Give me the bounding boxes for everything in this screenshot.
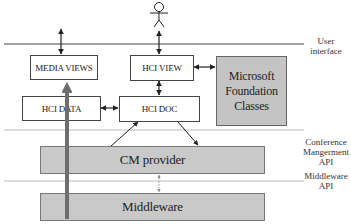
hci-data-box: HCI DATA xyxy=(22,96,101,121)
conference-api-layer-label: Conference Mangerment API xyxy=(301,137,351,167)
mfc-box: Microsoft Foundation Classes xyxy=(216,56,287,126)
middleware-box: Middleware xyxy=(40,193,265,221)
middleware-label: Middleware xyxy=(122,199,183,215)
hci-view-box: HCI VIEW xyxy=(130,55,194,81)
hci-view-label: HCI VIEW xyxy=(142,63,181,73)
cmprovider-hcidoc-arrow xyxy=(111,122,138,146)
middleware-api-layer-label: Middleware API xyxy=(301,171,351,191)
media-views-label: MEDIA VIEWS xyxy=(35,63,92,73)
hci-doc-box: HCI DOC xyxy=(119,96,200,122)
user-interface-layer-label: User interface xyxy=(301,36,351,56)
user-actor-icon xyxy=(150,3,168,28)
cm-provider-box: CM provider xyxy=(40,146,265,174)
hci-doc-label: HCI DOC xyxy=(142,104,177,114)
media-views-box: MEDIA VIEWS xyxy=(30,55,98,80)
hci-data-label: HCI DATA xyxy=(42,104,81,114)
mfc-label: Microsoft Foundation Classes xyxy=(217,69,286,114)
architecture-diagram: MEDIA VIEWS HCI VIEW Microsoft Foundatio… xyxy=(0,0,351,224)
hcidoc-cmprovider-arrow xyxy=(178,122,198,145)
cm-provider-label: CM provider xyxy=(120,152,185,168)
